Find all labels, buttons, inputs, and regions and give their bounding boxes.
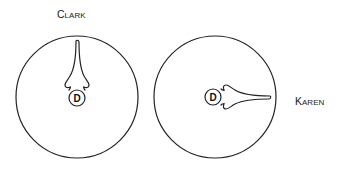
karen-d-marker: D (209, 92, 216, 103)
clark-d-marker: D (73, 93, 80, 104)
diagram-canvas: CLARK D D KAREN (0, 0, 343, 171)
karen-spike-shape (221, 85, 271, 109)
clark-spike-shape (65, 40, 89, 90)
karen-panel: D KAREN (154, 36, 324, 158)
clark-label: CLARK (57, 8, 86, 20)
clark-panel: CLARK D (16, 8, 138, 158)
karen-label: KAREN (295, 95, 324, 107)
